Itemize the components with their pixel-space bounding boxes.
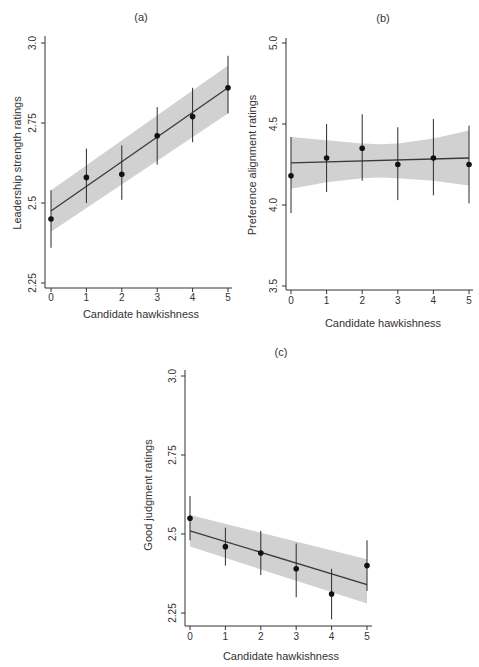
panel-c-data-point bbox=[223, 544, 229, 550]
panel-b-y-axis-title: Preference alignment ratings bbox=[246, 94, 258, 235]
panel-b-data-point bbox=[466, 162, 472, 168]
panel-c-data-point bbox=[293, 566, 299, 572]
panel-c-x-tick-label: 3 bbox=[293, 631, 299, 642]
panel-b-confidence-band bbox=[291, 131, 469, 189]
panel-c-x-tick-label: 0 bbox=[187, 631, 193, 642]
panel-b-x-tick-label: 5 bbox=[466, 295, 472, 306]
panel-c-title: (c) bbox=[275, 346, 288, 358]
panel-b-x-tick-label: 1 bbox=[324, 295, 330, 306]
figure-canvas: (a) Candidate hawkishness Leadership str… bbox=[0, 0, 479, 667]
panel-c-data-point bbox=[187, 515, 193, 521]
panel-b-data-point bbox=[431, 155, 437, 161]
panel-b-x-tick-label: 2 bbox=[359, 295, 365, 306]
panel-c-x-axis-title: Candidate hawkishness bbox=[223, 650, 340, 662]
panel-b-preference-alignment: (b) Candidate hawkishness Preference ali… bbox=[246, 12, 473, 329]
panel-c-x-tick-label: 5 bbox=[364, 631, 370, 642]
panel-a-data-point bbox=[225, 85, 231, 91]
panel-b-data-point bbox=[395, 162, 401, 168]
panel-b-x-tick-label: 3 bbox=[395, 295, 401, 306]
panel-c-y-tick-label: 2.75 bbox=[167, 445, 178, 465]
panel-a-fit-line bbox=[51, 88, 228, 211]
panel-c-x-tick-label: 2 bbox=[258, 631, 264, 642]
panel-a-data-point bbox=[154, 133, 160, 139]
panel-a-y-axis-title: Leadership strength ratings bbox=[11, 96, 23, 230]
panel-c-data-point bbox=[329, 591, 335, 597]
panel-a-x-tick-label: 3 bbox=[154, 292, 160, 303]
panel-c-y-tick-label: 2.25 bbox=[167, 603, 178, 623]
panel-c-confidence-band bbox=[190, 515, 367, 604]
panel-b-title: (b) bbox=[376, 12, 389, 24]
panel-c-x-tick-label: 4 bbox=[329, 631, 335, 642]
panel-a-data-point bbox=[190, 114, 196, 120]
panel-b-y-tick-label: 4.0 bbox=[268, 198, 279, 212]
panel-b-data-point bbox=[359, 146, 365, 152]
panel-a-y-tick-label: 2.75 bbox=[27, 113, 38, 133]
panel-a-y-tick-label: 3.0 bbox=[27, 36, 38, 50]
panel-b-data-point bbox=[288, 173, 294, 179]
panel-a-x-tick-label: 4 bbox=[190, 292, 196, 303]
panel-a-x-axis-title: Candidate hawkishness bbox=[83, 308, 200, 320]
panel-a-x-tick-label: 1 bbox=[84, 292, 90, 303]
panel-b-data-point bbox=[324, 155, 330, 161]
panel-b-y-tick-label: 5.0 bbox=[268, 36, 279, 50]
panel-c-good-judgment: (c) Candidate hawkishness Good judgment … bbox=[142, 346, 372, 662]
panel-a-plot-area: 2.252.52.753.0012345 bbox=[27, 36, 232, 303]
panel-a-x-tick-label: 2 bbox=[119, 292, 125, 303]
panel-a-y-tick-label: 2.5 bbox=[27, 196, 38, 210]
panel-b-x-tick-label: 4 bbox=[431, 295, 437, 306]
panel-c-y-tick-label: 3.0 bbox=[167, 369, 178, 383]
panel-c-x-tick-label: 1 bbox=[223, 631, 229, 642]
panel-b-y-tick-label: 3.5 bbox=[268, 279, 279, 293]
panel-b-y-tick-label: 4.5 bbox=[268, 117, 279, 131]
panel-a-y-tick-label: 2.25 bbox=[27, 273, 38, 293]
panel-c-y-axis-title: Good judgment ratings bbox=[142, 439, 154, 551]
panel-c-plot-area: 2.252.52.753.0012345 bbox=[167, 369, 372, 642]
panel-a-leadership-strength: (a) Candidate hawkishness Leadership str… bbox=[11, 11, 232, 320]
panel-b-plot-area: 3.54.04.55.0012345 bbox=[268, 36, 473, 306]
panel-a-data-point bbox=[119, 171, 125, 177]
panel-a-data-point bbox=[84, 175, 90, 181]
panel-c-data-point bbox=[258, 550, 264, 556]
panel-c-data-point bbox=[364, 563, 370, 569]
panel-a-x-tick-label: 0 bbox=[48, 292, 54, 303]
panel-a-x-tick-label: 5 bbox=[225, 292, 231, 303]
panel-b-x-tick-label: 0 bbox=[288, 295, 294, 306]
panel-b-x-axis-title: Candidate hawkishness bbox=[325, 317, 442, 329]
panel-a-title: (a) bbox=[134, 11, 147, 23]
panel-c-y-tick-label: 2.5 bbox=[167, 527, 178, 541]
panel-a-confidence-band bbox=[51, 65, 228, 231]
panel-a-data-point bbox=[48, 216, 54, 222]
